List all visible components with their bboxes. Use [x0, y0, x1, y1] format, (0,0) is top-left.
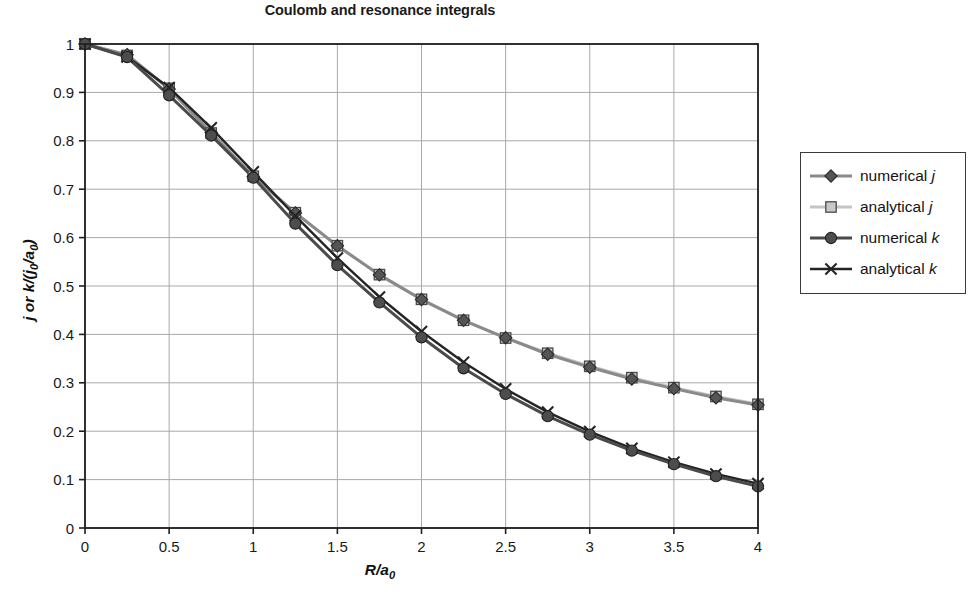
y-tick-label: 0.4 — [53, 326, 74, 343]
data-point-square — [826, 202, 836, 212]
legend-swatch-cross — [809, 260, 853, 278]
x-tick-label: 2.5 — [495, 538, 516, 555]
x-tick-label: 3.5 — [663, 538, 684, 555]
data-point-circle — [248, 172, 259, 183]
data-point-circle — [374, 297, 385, 308]
legend-swatch-diamond — [809, 167, 853, 185]
legend-swatch-square — [809, 198, 853, 216]
data-point-circle — [332, 260, 343, 271]
data-point-diamond — [825, 170, 837, 182]
chart-legend: numerical janalytical jnumerical kanalyt… — [800, 152, 966, 294]
axis-ticks: 00.10.20.30.40.50.60.70.80.9100.511.522.… — [53, 36, 762, 556]
data-point-circle — [458, 363, 469, 374]
y-tick-label: 0.5 — [53, 278, 74, 295]
data-point-circle — [626, 445, 637, 456]
data-point-circle — [290, 218, 301, 229]
y-tick-label: 1 — [66, 36, 74, 53]
plot-area: 00.10.20.30.40.50.60.70.80.9100.511.522.… — [0, 0, 974, 595]
legend-item-numerical-j: numerical j — [809, 163, 935, 189]
data-point-circle — [164, 90, 175, 101]
legend-label: analytical k — [860, 261, 937, 277]
y-tick-label: 0.3 — [53, 374, 74, 391]
x-tick-label: 2 — [417, 538, 425, 555]
chart-figure: Coulomb and resonance integrals 00.10.20… — [0, 0, 974, 595]
x-tick-label: 1 — [249, 538, 257, 555]
data-point-circle — [710, 471, 721, 482]
x-tick-label: 0 — [81, 538, 89, 555]
data-point-circle — [542, 411, 553, 422]
legend-item-analytical-k: analytical k — [809, 256, 937, 282]
x-axis-label: R/a0 — [0, 561, 760, 581]
data-point-circle — [825, 232, 836, 243]
data-point-circle — [121, 51, 132, 62]
data-point-circle — [668, 459, 679, 470]
y-tick-label: 0.2 — [53, 423, 74, 440]
gridlines — [85, 44, 758, 528]
x-tick-label: 1.5 — [327, 538, 348, 555]
y-tick-label: 0.6 — [53, 229, 74, 246]
data-point-circle — [416, 332, 427, 343]
y-axis-label: j or k/(j0/a0) — [20, 180, 40, 380]
legend-label: analytical j — [860, 199, 932, 215]
x-tick-label: 4 — [754, 538, 762, 555]
data-point-circle — [584, 429, 595, 440]
legend-label: numerical j — [860, 168, 935, 184]
y-tick-label: 0.7 — [53, 181, 74, 198]
y-tick-label: 0.8 — [53, 132, 74, 149]
y-tick-label: 0.1 — [53, 471, 74, 488]
data-point-circle — [206, 130, 217, 141]
y-tick-label: 0 — [66, 520, 74, 537]
legend-swatch-circle — [809, 229, 853, 247]
x-tick-label: 3 — [586, 538, 594, 555]
y-tick-label: 0.9 — [53, 84, 74, 101]
legend-item-analytical-j: analytical j — [809, 194, 932, 220]
x-tick-label: 0.5 — [159, 538, 180, 555]
data-point-circle — [500, 388, 511, 399]
legend-item-numerical-k: numerical k — [809, 225, 939, 251]
legend-label: numerical k — [860, 230, 939, 246]
